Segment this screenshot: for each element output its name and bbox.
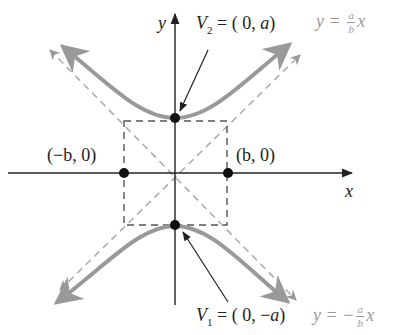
asymptote-negative-label: y = −abx xyxy=(313,304,374,329)
v2-pointer xyxy=(180,50,208,111)
point-b xyxy=(223,168,233,178)
diagram-graphics xyxy=(0,0,394,335)
v1-label: V1 = ( 0, −a) xyxy=(196,306,285,328)
v2-label: V2 = ( 0, a) xyxy=(196,14,275,36)
point-neg-b-label: (−b, 0) xyxy=(47,146,96,164)
vertex-v1-point xyxy=(170,220,180,230)
point-b-label: (b, 0) xyxy=(236,146,275,164)
hyperbola-diagram: y x V2 = ( 0, a) V1 = ( 0, −a) (−b, 0) (… xyxy=(0,0,394,335)
asymptote-positive-label: y = abx xyxy=(316,10,365,35)
point-neg-b xyxy=(119,168,129,178)
y-axis-label: y xyxy=(158,14,166,32)
lower-branch xyxy=(56,226,288,303)
x-axis-label: x xyxy=(345,182,353,200)
vertex-v2-point xyxy=(170,113,180,123)
upper-branch xyxy=(62,44,290,118)
asymptote-negative xyxy=(50,50,296,300)
